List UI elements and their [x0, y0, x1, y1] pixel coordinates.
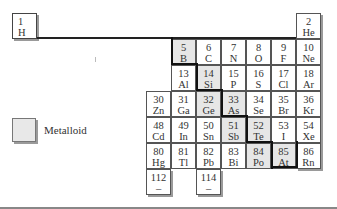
atomic-number: 34 — [247, 94, 270, 105]
element-symbol: Zn — [147, 105, 170, 116]
element-symbol: – — [147, 183, 170, 194]
element-symbol: O — [247, 53, 270, 64]
element-cell: 34Se — [246, 91, 271, 117]
atomic-number: 50 — [197, 120, 220, 131]
element-cell: 33As — [221, 91, 246, 117]
hydrogen-cell: 1 H — [12, 13, 37, 39]
legend-swatch-metalloid — [12, 118, 36, 142]
element-cell: 32Ge — [196, 91, 221, 117]
atomic-number: 9 — [272, 42, 295, 53]
atomic-number: 86 — [297, 146, 320, 157]
atomic-number: 33 — [222, 94, 245, 105]
element-cell: 52Te — [246, 117, 271, 143]
element-symbol: Cd — [147, 131, 170, 142]
element-cell: 14Si — [196, 65, 221, 91]
atomic-number: 32 — [197, 94, 220, 105]
element-cell: 10Ne — [296, 39, 321, 65]
bottom-rule — [0, 207, 337, 209]
hydrogen-number: 1 — [18, 16, 36, 27]
atomic-number: 31 — [172, 94, 195, 105]
element-cell: 114– — [196, 169, 221, 195]
atomic-number: 14 — [197, 68, 220, 79]
element-cell: 80Hg — [146, 143, 171, 169]
element-symbol: S — [247, 79, 270, 90]
element-symbol: Ne — [297, 53, 320, 64]
atomic-number: 48 — [147, 120, 170, 131]
element-cell: 2He — [296, 13, 321, 39]
element-symbol: Br — [272, 105, 295, 116]
element-cell: 53I — [271, 117, 296, 143]
element-symbol: Pb — [197, 157, 220, 168]
element-cell: 81Tl — [171, 143, 196, 169]
atomic-number: 54 — [297, 120, 320, 131]
atomic-number: 15 — [222, 68, 245, 79]
atomic-number: 6 — [197, 42, 220, 53]
element-symbol: In — [172, 131, 195, 142]
atomic-number: 17 — [272, 68, 295, 79]
element-cell: 84Po — [246, 143, 271, 169]
element-cell: 86Rn — [296, 143, 321, 169]
element-cell: 9F — [271, 39, 296, 65]
element-cell: 17Cl — [271, 65, 296, 91]
atomic-number: 35 — [272, 94, 295, 105]
atomic-number: 51 — [222, 120, 245, 131]
element-symbol: Po — [247, 157, 270, 168]
element-cell: 49In — [171, 117, 196, 143]
atomic-number: 18 — [297, 68, 320, 79]
element-symbol: Ar — [297, 79, 320, 90]
element-cell: 30Zn — [146, 91, 171, 117]
stray-mark — [95, 57, 96, 62]
element-cell: 35Br — [271, 91, 296, 117]
element-symbol: I — [272, 131, 295, 142]
atomic-number: 83 — [222, 146, 245, 157]
element-cell: 83Bi — [221, 143, 246, 169]
element-cell: 18Ar — [296, 65, 321, 91]
element-symbol: Sb — [222, 131, 245, 142]
element-cell: 7N — [221, 39, 246, 65]
atomic-number: 5 — [172, 42, 195, 53]
element-symbol: Tl — [172, 157, 195, 168]
element-symbol: C — [197, 53, 220, 64]
atomic-number: 112 — [147, 172, 170, 183]
atomic-number: 2 — [297, 16, 320, 27]
element-cell: 6C — [196, 39, 221, 65]
atomic-number: 84 — [247, 146, 270, 157]
atomic-number: 80 — [147, 146, 170, 157]
element-cell: 5B — [171, 39, 196, 65]
element-cell: 50Sn — [196, 117, 221, 143]
element-symbol: Se — [247, 105, 270, 116]
element-cell: 13Al — [171, 65, 196, 91]
element-symbol: Ga — [172, 105, 195, 116]
hydrogen-symbol: H — [18, 27, 36, 38]
element-cell: 112– — [146, 169, 171, 195]
element-symbol: F — [272, 53, 295, 64]
element-cell: 48Cd — [146, 117, 171, 143]
element-symbol: – — [197, 183, 220, 194]
element-symbol: Cl — [272, 79, 295, 90]
atomic-number: 8 — [247, 42, 270, 53]
element-symbol: Ge — [197, 105, 220, 116]
element-cell: 31Ga — [171, 91, 196, 117]
element-symbol: N — [222, 53, 245, 64]
atomic-number: 81 — [172, 146, 195, 157]
element-cell: 54Xe — [296, 117, 321, 143]
element-symbol: Sn — [197, 131, 220, 142]
element-cell: 51Sb — [221, 117, 246, 143]
atomic-number: 85 — [272, 146, 295, 157]
atomic-number: 13 — [172, 68, 195, 79]
atomic-number: 7 — [222, 42, 245, 53]
element-cell: 16S — [246, 65, 271, 91]
atomic-number: 49 — [172, 120, 195, 131]
atomic-number: 52 — [247, 120, 270, 131]
atomic-number: 36 — [297, 94, 320, 105]
element-symbol: Kr — [297, 105, 320, 116]
element-cell: 15P — [221, 65, 246, 91]
element-symbol: Xe — [297, 131, 320, 142]
legend-label-metalloid: Metalloid — [44, 124, 87, 136]
atomic-number: 16 — [247, 68, 270, 79]
element-cell: 82Pb — [196, 143, 221, 169]
element-symbol: Al — [172, 79, 195, 90]
element-symbol: Rn — [297, 157, 320, 168]
element-symbol: Bi — [222, 157, 245, 168]
atomic-number: 53 — [272, 120, 295, 131]
